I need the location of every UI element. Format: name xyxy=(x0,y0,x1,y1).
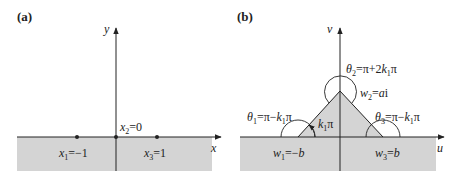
u-axis-label: u xyxy=(437,141,443,155)
x-axis-label: x xyxy=(210,141,217,155)
label-theta3: θ3=π−k1π xyxy=(375,110,420,126)
panel-b: (b) v u θ2=π+2k1π w2=ai θ1=π−k1π θ3=π−k1… xyxy=(237,9,444,171)
diagram-canvas: (a) y x x2=0 x1=−1 x3=1 (b) v u θ2=π+2k1… xyxy=(0,0,459,179)
label-theta1: θ1=π−k1π xyxy=(247,110,292,126)
panel-b-label: (b) xyxy=(237,9,253,24)
point-x2 xyxy=(114,135,118,139)
lower-half-plane-shade xyxy=(240,137,436,171)
panel-a: (a) y x x2=0 x1=−1 x3=1 xyxy=(17,9,221,171)
label-w1: w1=−b xyxy=(273,146,305,162)
label-x2: x2=0 xyxy=(119,120,142,136)
label-x1: x1=−1 xyxy=(58,146,88,162)
label-w2: w2=ai xyxy=(360,86,389,102)
label-theta2: θ2=π+2k1π xyxy=(346,62,397,78)
point-x1 xyxy=(75,135,79,139)
y-axis-label: y xyxy=(103,22,110,36)
v-axis-label: v xyxy=(327,22,333,36)
lower-half-plane-shade xyxy=(17,137,212,171)
panel-a-label: (a) xyxy=(17,9,32,24)
label-w3: w3=b xyxy=(375,146,400,162)
label-x3: x3=1 xyxy=(143,146,166,162)
point-x3 xyxy=(155,135,159,139)
